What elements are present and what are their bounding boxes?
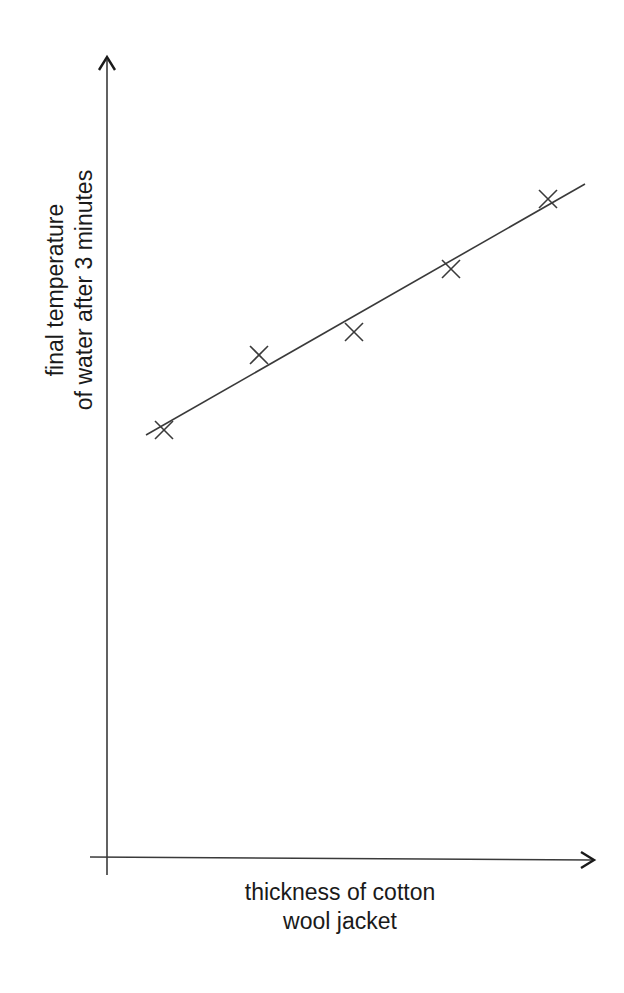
data-point-cross-icon (155, 421, 173, 439)
data-point-cross-icon (250, 346, 268, 364)
data-point-cross-icon (345, 323, 363, 341)
y-axis-label-line-2: of water after 3 minutes (70, 170, 99, 410)
x-axis-label: thickness of cotton wool jacket (200, 878, 480, 936)
x-axis (90, 852, 594, 868)
y-axis (99, 57, 115, 875)
x-axis-label-line-2: wool jacket (200, 907, 480, 936)
y-axis-label-line-1: final temperature (41, 170, 70, 410)
data-point-cross-icon (442, 260, 460, 278)
best-fit-line (146, 184, 585, 435)
x-axis-label-line-1: thickness of cotton (200, 878, 480, 907)
scatter-chart (0, 0, 624, 993)
